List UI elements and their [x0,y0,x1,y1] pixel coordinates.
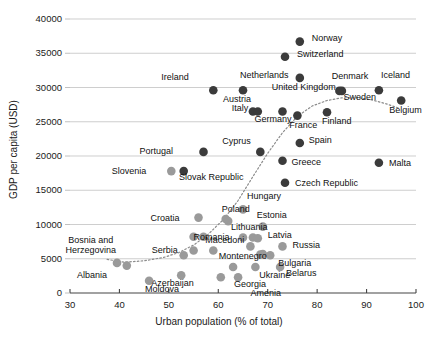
y-tick-label: 0 [12,287,62,298]
x-tick-label: 100 [396,299,436,310]
x-axis-title: Urban population (% of total) [0,316,438,327]
point-label-cyprus: Cyprus [222,136,251,146]
data-point-slovenia2 [167,167,176,176]
data-point-serbia [179,251,188,260]
point-label-slovenia: Slovenia [112,166,147,176]
data-point-bosnia-and-herzegovina [123,261,132,270]
x-tick-label: 60 [198,299,238,310]
point-label-belgium: Belgium [389,105,422,115]
point-label-iceland: Iceland [381,70,410,80]
point-label-denmark: Denmark [332,71,369,81]
point-label-malta: Malta [389,158,411,168]
point-label-sweden: Sweden [343,92,376,102]
point-label-france: France [289,120,317,130]
point-label-montenegro: Montenegro [219,251,267,261]
data-point-greece [278,157,287,166]
data-point-norway [296,37,305,46]
point-label-netherlands: Netherlands [240,70,289,80]
data-point-cyprus [256,148,265,157]
point-label-lithuania: Lithuania [231,222,268,232]
x-tick-label: 40 [99,299,139,310]
y-tick-label: 25000 [12,116,62,127]
point-label-norway: Norway [312,33,343,43]
point-label-romania: Romania [194,232,230,242]
x-tick-label: 90 [347,299,387,310]
data-point-czech-republic [281,178,290,187]
point-label-bosnia-and-herzegovina: Bosnia and Herzegovina [58,235,124,255]
point-label-bulgaria: Bulgaria [278,258,311,268]
point-label-germany: Germany [255,114,292,124]
x-tick-label: 30 [50,299,90,310]
x-tick-label: 50 [149,299,189,310]
data-point-extra [246,242,255,251]
point-label-russia: Russia [293,240,321,250]
data-point-latvia [253,234,262,243]
point-label-croatia: Croatia [151,213,180,223]
y-tick-label: 15000 [12,184,62,195]
y-tick-label: 10000 [12,219,62,230]
point-label-latvia: Latvia [268,230,292,240]
point-label-switzerland: Switzerland [297,49,344,59]
point-label-slovak-republic: Slovak Republic [179,172,244,182]
data-point-malta [375,159,384,168]
point-label-moldova: Moldova [145,284,179,294]
data-point-russia [278,242,287,251]
data-point-extra [217,273,226,282]
point-label-poland: Poland [222,204,250,214]
data-point-ireland [209,86,218,95]
x-tick-label: 70 [248,299,288,310]
point-label-spain: Spain [309,135,332,145]
y-tick-label: 40000 [12,13,62,24]
point-label-amenia: Amenia [251,288,282,298]
data-point-bulgaria [266,251,275,260]
data-point-albania [113,259,122,268]
data-point-switzerland [281,52,290,61]
x-tick-label: 80 [297,299,337,310]
data-point-spain [296,139,305,148]
point-label-belarus: Belarus [286,268,317,278]
data-point-extra [189,246,198,255]
y-tick-label: 5000 [12,253,62,264]
data-point-poland [221,215,230,224]
data-point-united-kingdom [296,74,305,83]
point-label-italy: Italy [232,103,249,113]
point-label-finland: Finland [322,116,352,126]
point-label-czech-republic: Czech Republic [295,178,358,188]
scatter-chart: Urban population (% of total) GDP per ca… [0,0,438,342]
point-label-estonia: Estonia [257,210,287,220]
point-label-albania: Albania [77,270,107,280]
point-label-hungary: Hungary [247,191,281,201]
data-point-croatia [194,213,203,222]
point-label-ireland: Ireland [161,72,189,82]
point-label-serbia: Serbia [152,245,178,255]
point-label-united-kingdom: United Kingdom [272,82,336,92]
point-label-greece: Greece [292,157,322,167]
point-label-portugal: Portugal [139,146,173,156]
data-point-extra [229,263,238,272]
y-tick-label: 35000 [12,47,62,58]
y-tick-label: 20000 [12,150,62,161]
data-point-netherlands [239,86,248,95]
y-tick-label: 30000 [12,82,62,93]
data-point-macedoni [209,246,218,255]
data-point-belgium [397,96,406,105]
data-point-portugal [199,148,208,157]
